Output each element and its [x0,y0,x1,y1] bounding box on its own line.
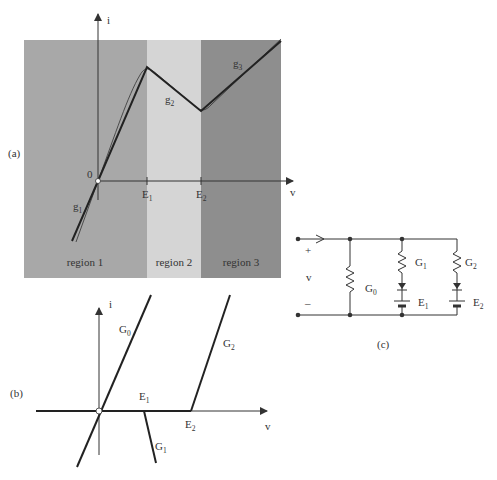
region-2-band [147,40,201,278]
e1-b-label: E1 [139,390,150,405]
panel-b-label: (b) [10,387,23,400]
terminal-bottom [296,313,301,318]
panel-c [296,235,465,317]
panel-a: region 1 region 2 region 3 i v 0 E1 E2 g… [24,14,296,278]
i-axis-label: i [107,14,110,26]
g2-b-label: G2 [223,337,235,352]
g0-c-label: G0 [365,282,377,297]
g1-resistor [398,251,406,273]
g2-resistor [453,251,461,273]
e1-c-label: E1 [418,296,429,311]
panel-c-label: (c) [377,338,390,351]
minus-label: – [304,297,311,309]
voltage-label: v [306,271,312,283]
panel-a-label: (a) [8,147,21,160]
node-g0-bottom [348,313,353,318]
v-axis-label: v [290,186,296,198]
g0-line [77,295,151,467]
node-g1-bottom [400,313,405,318]
g0-label: G0 [119,323,131,338]
region-1-band [24,40,147,278]
g1-diode [398,283,406,289]
g2-line [191,295,230,411]
g2-diode [453,283,461,289]
origin-label: 0 [87,168,93,180]
e2-b-label: E2 [185,418,196,433]
g0-resistor [346,266,354,292]
figure: region 1 region 2 region 3 i v 0 E1 E2 g… [0,0,497,480]
terminal-top [296,237,301,242]
e2-c-label: E2 [473,296,484,311]
b-v-axis-label: v [265,420,271,432]
b-origin-point [96,408,102,414]
region-1-label: region 1 [67,256,103,268]
region-2-label: region 2 [156,256,192,268]
g1-c-label: G1 [415,256,427,271]
b-i-axis-label: i [109,298,112,310]
node-g1-top [400,237,405,242]
node-g0-top [348,237,353,242]
g1-line [144,411,156,463]
plus-label: + [305,244,311,256]
g2-c-label: G2 [465,256,477,271]
origin-point [96,179,101,184]
g1-b-label: G1 [155,440,167,455]
panel-b: i v G0 G1 G2 E1 E2 [36,295,271,467]
region-3-label: region 3 [223,256,260,268]
